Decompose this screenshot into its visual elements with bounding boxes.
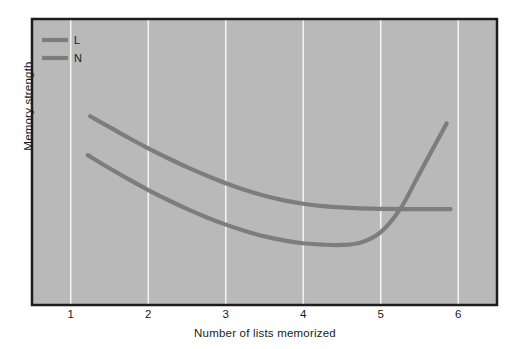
x-tick-label-1: 1 [58, 308, 84, 320]
x-axis-label: Number of lists memorized [32, 327, 498, 339]
x-tick-label-2: 2 [135, 308, 161, 320]
x-tick-label-5: 5 [368, 308, 394, 320]
y-axis-label: Memory strength [22, 26, 34, 186]
chart-figure: L N 123456 Number of lists memorized Mem… [0, 0, 506, 349]
legend-label-n: N [74, 52, 82, 64]
x-tick-label-6: 6 [445, 308, 471, 320]
x-tick-label-3: 3 [213, 308, 239, 320]
legend-label-l: L [74, 34, 80, 46]
x-tick-label-4: 4 [290, 308, 316, 320]
